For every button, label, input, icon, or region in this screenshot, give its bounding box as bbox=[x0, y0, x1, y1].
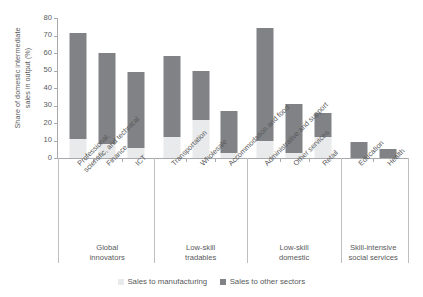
group-separator bbox=[58, 158, 59, 263]
bar-segment-sales-to-other-sectors bbox=[70, 33, 87, 138]
chart-root: Share of domestic intermediate sales in … bbox=[0, 0, 423, 297]
x-axis-tick-mark bbox=[186, 158, 187, 162]
y-axis-tick-label: 20 bbox=[44, 118, 52, 127]
x-axis-tick-mark bbox=[215, 158, 216, 162]
legend-item[interactable]: Sales to manufacturing bbox=[118, 277, 207, 286]
chart-legend: Sales to manufacturingSales to other sec… bbox=[0, 277, 423, 286]
bar-slot bbox=[64, 18, 93, 158]
group-label: Low-skill tradables bbox=[156, 243, 246, 262]
group-label: Global innovators bbox=[62, 243, 152, 262]
x-axis-tick-mark bbox=[122, 158, 123, 162]
legend-label: Sales to manufacturing bbox=[127, 277, 207, 286]
group-label: Skill-intensive social services bbox=[328, 243, 418, 262]
y-axis-tick-label: 60 bbox=[44, 48, 52, 57]
stacked-bar[interactable] bbox=[70, 33, 87, 158]
y-axis-tick-label: 80 bbox=[44, 13, 52, 22]
y-axis-tick-label: 50 bbox=[44, 65, 52, 74]
x-axis-tick-mark bbox=[373, 158, 374, 162]
y-axis-tick-label: 30 bbox=[44, 100, 52, 109]
y-axis-tick-label: 0 bbox=[48, 153, 52, 162]
legend-swatch-light bbox=[118, 279, 124, 285]
y-axis-tick-label: 10 bbox=[44, 135, 52, 144]
legend-item[interactable]: Sales to other sectors bbox=[220, 277, 305, 286]
y-axis-tick-label: 40 bbox=[44, 83, 52, 92]
y-axis-tick-label: 70 bbox=[44, 30, 52, 39]
group-label: Low-skill domestic bbox=[249, 243, 339, 262]
legend-swatch-dark bbox=[220, 279, 226, 285]
x-axis-tick-mark bbox=[309, 158, 310, 162]
y-axis-title: Share of domestic intermediate sales in … bbox=[13, 3, 33, 153]
legend-label: Sales to other sectors bbox=[230, 277, 305, 286]
y-axis-tick-mark bbox=[54, 158, 57, 159]
x-axis-tick-mark bbox=[280, 158, 281, 162]
